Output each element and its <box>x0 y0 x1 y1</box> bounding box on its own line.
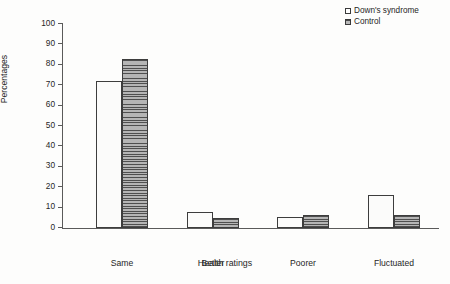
plot-area: 0102030405060708090100SameBetterPoorerFl… <box>62 24 438 228</box>
bar <box>96 81 122 228</box>
x-axis-category-label: Fluctuated <box>354 258 434 268</box>
y-axis-tick-label: 60 <box>46 99 55 109</box>
x-axis-line <box>62 228 439 229</box>
bar-group <box>96 24 148 228</box>
y-axis-tick: 30 <box>58 166 62 167</box>
x-axis-category-label: Same <box>82 258 162 268</box>
bar-group <box>277 24 329 228</box>
y-axis-tick-label: 70 <box>46 79 55 89</box>
bar-group <box>368 24 420 228</box>
y-axis-tick-label: 100 <box>41 18 55 28</box>
bar-chart: Down's syndrome Control Percentages Heal… <box>0 0 450 284</box>
y-axis-tick: 10 <box>58 207 62 208</box>
y-axis-tick: 20 <box>58 186 62 187</box>
y-axis-tick-label: 0 <box>50 222 55 232</box>
y-axis-tick: 40 <box>58 145 62 146</box>
y-axis-tick: 70 <box>58 84 62 85</box>
bar <box>394 215 420 228</box>
bar-group <box>187 24 239 228</box>
bar <box>187 212 213 228</box>
y-axis-tick: 100 <box>58 23 62 24</box>
y-axis-tick: 50 <box>58 125 62 126</box>
bar <box>303 215 329 228</box>
bar <box>368 195 394 228</box>
legend-item-downs-syndrome: Down's syndrome <box>345 6 419 17</box>
y-axis-tick-label: 10 <box>46 201 55 211</box>
y-axis-tick-label: 80 <box>46 58 55 68</box>
legend-label-downs-syndrome: Down's syndrome <box>354 6 419 17</box>
y-axis-title: Percentages <box>0 39 9 119</box>
bar <box>213 218 239 228</box>
y-axis-tick: 80 <box>58 64 62 65</box>
bar <box>122 59 148 228</box>
y-axis-tick-label: 50 <box>46 120 55 130</box>
x-axis-category-label: Poorer <box>263 258 343 268</box>
y-axis-tick-label: 20 <box>46 181 55 191</box>
y-axis-tick-label: 40 <box>46 140 55 150</box>
open-square-icon <box>345 8 351 14</box>
y-axis-tick: 90 <box>58 43 62 44</box>
y-axis-tick-label: 30 <box>46 160 55 170</box>
bar <box>277 217 303 228</box>
y-axis-tick: 0 <box>58 227 62 228</box>
y-axis-tick-label: 90 <box>46 38 55 48</box>
y-axis-tick: 60 <box>58 105 62 106</box>
x-axis-category-label: Better <box>173 258 253 268</box>
